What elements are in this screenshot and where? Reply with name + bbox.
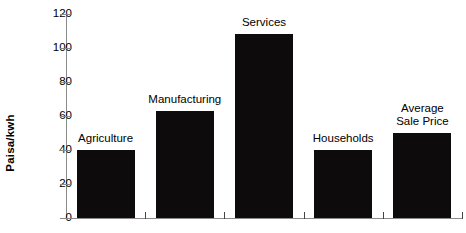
- bar-label: Manufacturing: [125, 93, 245, 106]
- y-axis-title: Paisa/kwh: [0, 88, 20, 198]
- bar: [393, 133, 451, 218]
- bar: [156, 111, 214, 218]
- y-axis-tick-label: 20: [18, 177, 72, 189]
- bar-label: Agriculture: [46, 132, 166, 145]
- bar: [314, 150, 372, 218]
- bar-label: Households: [283, 132, 403, 145]
- y-axis-tick-mark: [60, 218, 72, 219]
- x-axis-tick-mark: [462, 212, 463, 219]
- y-axis-tick-label: 120: [18, 7, 72, 19]
- y-axis-tick-label: 60: [18, 109, 72, 121]
- y-axis-tick-label: 80: [18, 75, 72, 87]
- bar-label: Services: [204, 16, 324, 29]
- y-axis-title-text: Paisa/kwh: [4, 114, 16, 171]
- bar-label: Average Sale Price: [362, 102, 466, 128]
- bar: [77, 150, 135, 218]
- bar-chart: Paisa/kwh 020406080100120 AgricultureMan…: [0, 0, 466, 233]
- y-axis-tick-label: 0: [18, 211, 72, 223]
- bar: [235, 34, 293, 218]
- y-axis-tick-label: 100: [18, 41, 72, 53]
- x-axis-line: [66, 218, 462, 219]
